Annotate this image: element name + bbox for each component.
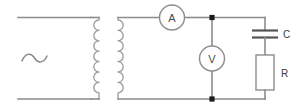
ammeter-label: A [168,12,176,24]
resistor-label: R [281,68,288,79]
node-top [209,15,214,20]
transformer-primary-coil [91,18,99,100]
circuit-diagram: A V C R [0,0,305,111]
voltmeter-label: V [208,53,216,65]
node-bottom [209,96,214,101]
ac-source [22,54,47,62]
rc-branch [252,18,278,100]
ac-source-loop [18,18,91,100]
ammeter: A [160,5,185,30]
primary-winding [94,18,99,100]
resistor-box [256,55,274,90]
capacitor-label: C [283,29,290,40]
voltmeter-branch: V [200,18,225,100]
transformer-secondary-coil [118,18,123,100]
secondary-winding [118,18,123,100]
measurement-circuit [118,18,265,100]
circuit-canvas: A V C R [0,0,305,111]
ac-source-icon [22,54,47,62]
